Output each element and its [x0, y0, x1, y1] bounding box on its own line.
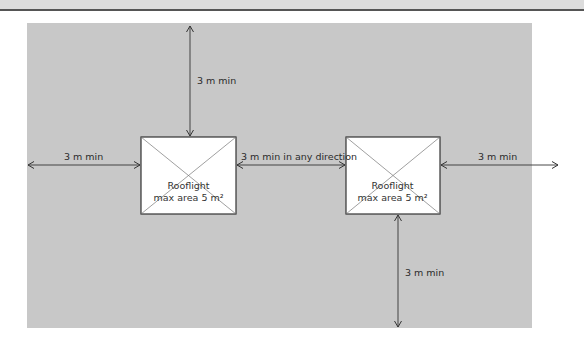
- rooflight-2-area: max area 5 m²: [345, 192, 440, 204]
- rooflight-1-label: Rooflight max area 5 m²: [141, 180, 236, 204]
- rooflight-2-label: Rooflight max area 5 m²: [345, 180, 440, 204]
- left-dimension-label: 3 m min: [64, 151, 103, 162]
- right-dimension-label: 3 m min: [478, 151, 517, 162]
- rooflight-1-area: max area 5 m²: [141, 192, 236, 204]
- diagram-graphics: [0, 0, 584, 352]
- between-dimension-label: 3 m min in any direction: [241, 151, 357, 162]
- top-dimension-label: 3 m min: [197, 75, 236, 86]
- rooflight-1-title: Rooflight: [141, 180, 236, 192]
- rooflight-2-title: Rooflight: [345, 180, 440, 192]
- bottom-dimension-label: 3 m min: [405, 267, 444, 278]
